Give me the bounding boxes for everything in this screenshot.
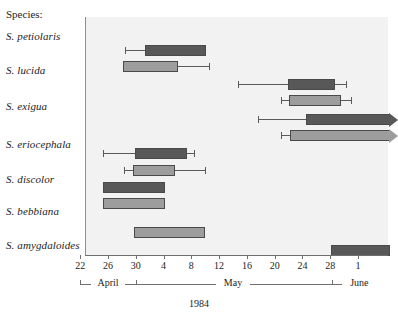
x-tick-label: 16 — [235, 260, 259, 271]
range-bar[interactable] — [288, 79, 335, 90]
x-tick-label: 20 — [263, 260, 287, 271]
plot-area — [85, 17, 388, 255]
month-rule — [136, 284, 216, 285]
x-tick — [164, 255, 165, 259]
whisker-cap-high — [194, 150, 195, 157]
month-label: May — [216, 277, 250, 288]
month-rule — [80, 284, 91, 285]
range-bar[interactable] — [103, 198, 165, 209]
arrow-head-icon — [389, 113, 398, 127]
x-tick — [247, 255, 248, 259]
range-bar[interactable] — [133, 165, 175, 176]
x-tick — [358, 255, 359, 259]
species-label: S. lucida — [6, 64, 45, 76]
whisker-cap-low — [103, 150, 104, 157]
month-rule — [125, 284, 136, 285]
species-column-header: Species: — [6, 8, 43, 20]
month-label: April — [91, 277, 125, 288]
x-tick-label: 30 — [124, 260, 148, 271]
x-tick-label: 1 — [346, 260, 370, 271]
arrow-head-icon — [389, 129, 398, 143]
x-tick-label: 24 — [290, 260, 314, 271]
whisker-cap-low — [281, 97, 282, 104]
range-bar[interactable] — [135, 148, 187, 159]
species-label: S. eriocephala — [6, 138, 71, 150]
month-rule — [250, 284, 332, 285]
whisker-cap-high — [205, 167, 206, 174]
whisker-cap-low — [238, 81, 239, 88]
species-label: S. petiolaris — [6, 30, 60, 42]
whisker-cap-low — [258, 116, 259, 123]
range-bar[interactable] — [123, 61, 178, 72]
x-axis-line — [85, 255, 388, 256]
x-tick-label: 28 — [318, 260, 342, 271]
range-bar[interactable] — [290, 130, 389, 141]
x-tick-label: 8 — [179, 260, 203, 271]
x-tick — [191, 255, 192, 259]
species-label: S. bebbiana — [6, 205, 59, 217]
species-label: S. exigua — [6, 100, 47, 112]
x-tick — [275, 255, 276, 259]
x-tick — [219, 255, 220, 259]
x-tick — [330, 255, 331, 259]
species-label: S. discolor — [6, 173, 54, 185]
range-bar[interactable] — [134, 227, 205, 238]
x-tick — [108, 255, 109, 259]
range-bar[interactable] — [289, 95, 341, 106]
x-tick — [136, 255, 137, 259]
month-rule — [332, 284, 343, 285]
x-tick — [80, 255, 81, 259]
whisker-cap-high — [209, 63, 210, 70]
x-tick-label: 26 — [96, 260, 120, 271]
x-tick-label: 22 — [68, 260, 92, 271]
x-tick — [302, 255, 303, 259]
whisker-cap-low — [124, 167, 125, 174]
chart-root: Species: S. petiolarisS. lucidaS. exigua… — [0, 0, 398, 320]
range-bar[interactable] — [306, 114, 390, 125]
species-label: S. amygdaloides — [6, 239, 80, 251]
x-tick-label: 12 — [207, 260, 231, 271]
year-label: 1984 — [0, 298, 398, 309]
month-boundary-tick — [80, 280, 81, 285]
plot-inner — [86, 17, 388, 255]
whisker-cap-high — [351, 97, 352, 104]
range-bar[interactable] — [145, 45, 205, 56]
x-tick-label: 4 — [152, 260, 176, 271]
whisker-cap-low — [281, 132, 282, 139]
whisker-cap-low — [125, 47, 126, 54]
whisker-cap-high — [346, 81, 347, 88]
month-label: June — [342, 277, 376, 288]
range-bar[interactable] — [103, 182, 165, 193]
